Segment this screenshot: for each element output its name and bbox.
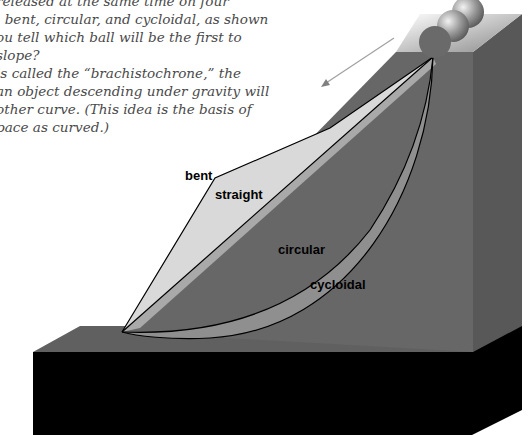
label-straight: straight	[215, 187, 263, 202]
label-cycloidal: cycloidal	[310, 277, 366, 292]
ball-icon	[419, 26, 451, 58]
label-circular: circular	[278, 242, 325, 257]
brachistochrone-figure: released at the same time on four , bent…	[0, 0, 528, 435]
ramp-diagram: bent straight circular cycloidal	[0, 0, 528, 435]
label-bent: bent	[185, 168, 213, 183]
tower-side-face	[473, 14, 522, 352]
tower-block	[122, 14, 522, 352]
slab-front-face	[33, 352, 472, 435]
